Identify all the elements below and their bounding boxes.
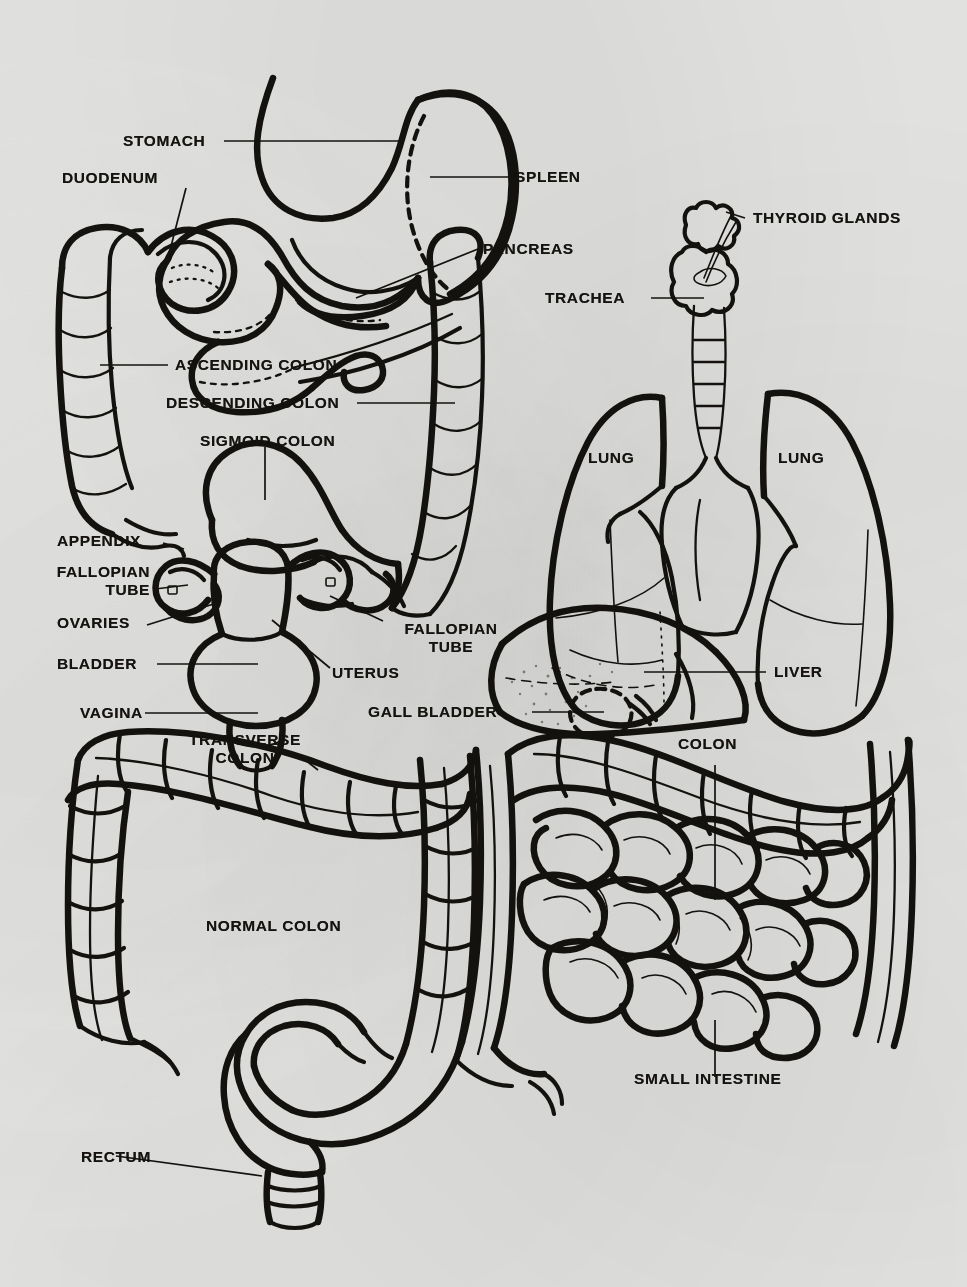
label-transverse-colon: TRANSVERSE COLON [180, 731, 310, 767]
label-descending-colon: DESCENDING COLON [166, 394, 339, 412]
label-sigmoid-colon: SIGMOID COLON [200, 432, 335, 450]
label-rectum: RECTUM [81, 1148, 151, 1166]
label-ascending-colon: ASCENDING COLON [175, 356, 337, 374]
trachea-illustration [662, 306, 759, 634]
label-ovaries: OVARIES [57, 614, 130, 632]
stomach-illustration [168, 78, 516, 317]
label-trachea: TRACHEA [545, 289, 625, 307]
label-pancreas: PANCREAS [483, 240, 574, 258]
label-uterus: UTERUS [332, 664, 399, 682]
duodenum-illustration [159, 259, 386, 412]
label-lung-right: LUNG [778, 449, 824, 467]
label-small-intestine: SMALL INTESTINE [634, 1070, 781, 1088]
lung-right-illustration [758, 393, 891, 734]
label-colon: COLON [678, 735, 737, 753]
label-appendix: APPENDIX [57, 532, 141, 550]
label-liver: LIVER [774, 663, 823, 681]
label-fallopian-tube-left: FALLOPIAN TUBE [25, 563, 150, 599]
label-gall-bladder: GALL BLADDER [368, 703, 497, 721]
label-duodenum: DUODENUM [62, 169, 158, 187]
label-fallopian-tube-right: FALLOPIAN TUBE [386, 620, 516, 656]
label-spleen: SPLEEN [515, 168, 581, 186]
label-vagina: VAGINA [80, 704, 143, 722]
anatomy-diagram-page: .ink{fill:none;stroke:#15130f;stroke-lin… [0, 0, 967, 1287]
small-intestine-loops [520, 811, 867, 1058]
label-lung-left: LUNG [588, 449, 634, 467]
upper-right-panel [491, 202, 890, 738]
label-bladder: BLADDER [57, 655, 137, 673]
leader-uterus [272, 620, 330, 668]
spleen-illustration [407, 92, 511, 296]
label-stomach: STOMACH [123, 132, 205, 150]
label-thyroid-glands: THYROID GLANDS [753, 209, 901, 227]
colon-small-intestine-illustration [456, 735, 913, 1114]
liver-illustration [491, 608, 745, 739]
lung-left-illustration [550, 397, 679, 726]
label-normal-colon: NORMAL COLON [206, 917, 341, 935]
